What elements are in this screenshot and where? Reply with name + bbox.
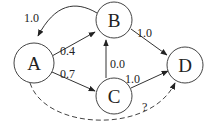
edge-label-a-to-d: ? — [142, 100, 147, 114]
node-c: C — [96, 78, 132, 114]
edge-label-a-to-c: 0.7 — [60, 67, 75, 81]
node-a-label: A — [27, 53, 41, 74]
edge-label-b-to-a: 1.0 — [24, 11, 39, 25]
node-d: D — [167, 47, 203, 83]
node-d-label: D — [178, 55, 192, 76]
node-b-label: B — [108, 10, 121, 31]
edge-label-a-to-b: 0.4 — [60, 44, 75, 58]
node-a: A — [14, 43, 54, 83]
edge-label-c-to-b: 0.0 — [110, 57, 125, 71]
edge-b-to-a — [38, 6, 97, 36]
edge-label-b-to-d: 1.0 — [137, 26, 152, 40]
node-c-label: C — [108, 86, 121, 107]
graph-diagram: 1.0 0.4 0.7 0.0 1.0 1.0 ? A B C D — [0, 0, 210, 131]
node-b: B — [96, 2, 132, 38]
